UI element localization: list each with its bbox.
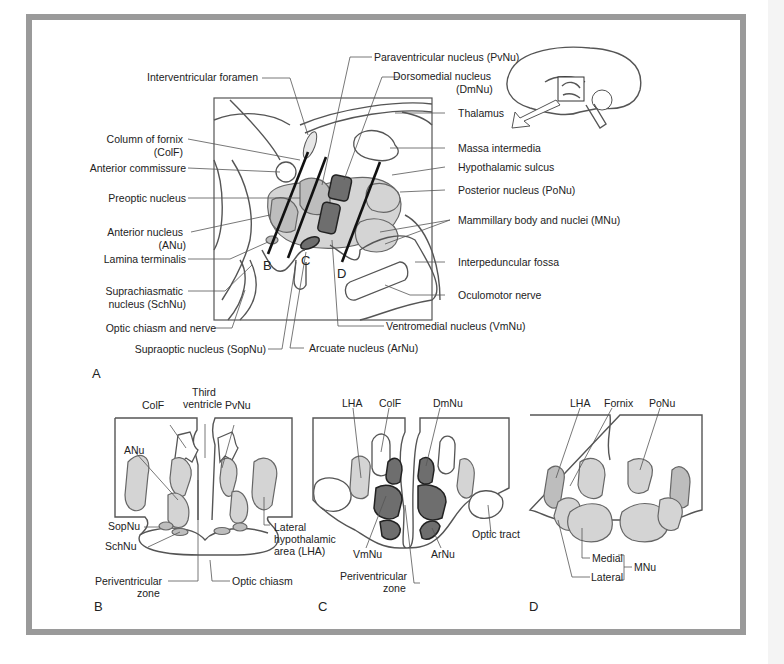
label-b-optic-chiasm: Optic chiasm (232, 575, 293, 587)
label-c-optic-tract: Optic tract (472, 528, 520, 540)
cut-plane-b-label: B (263, 258, 272, 273)
label-schnu: nucleus (SchNu) (108, 298, 186, 310)
label-c-colf: ColF (379, 397, 401, 409)
label-preoptic-nucleus: Preoptic nucleus (108, 192, 186, 204)
label-d-mnu: MNu (634, 561, 656, 573)
label-supraoptic-nucleus: Supraoptic nucleus (SopNu) (135, 343, 266, 355)
label-anu-abbrev: (ANu) (159, 239, 186, 251)
label-arcuate-nucleus: Arcuate nucleus (ArNu) (309, 342, 418, 354)
mammillary-body-shape (355, 219, 398, 252)
anu-left (168, 493, 189, 527)
lha-c-right (457, 459, 474, 498)
panel-d-label: D (529, 599, 538, 614)
label-d-lateral: Lateral (591, 571, 623, 583)
hypothalamus-figure: B C D Interventricular foramen Column of… (0, 0, 784, 664)
label-hypothalamic-sulcus: Hypothalamic sulcus (458, 161, 554, 173)
arnu-c-left (380, 520, 400, 539)
label-b-zone: zone (137, 587, 160, 599)
optic-tract-left (314, 478, 351, 511)
pvnu-right (220, 458, 237, 496)
label-column-of-fornix: Column of fornix (107, 133, 184, 145)
label-colf-abbrev: (ColF) (154, 146, 183, 158)
label-mammillary-body: Mammillary body and nuclei (MNu) (458, 214, 620, 226)
dmnu-c-left (386, 458, 402, 484)
label-massa-intermedia: Massa intermedia (458, 142, 541, 154)
panel-a-right-labels: Thalamus Massa intermedia Hypothalamic s… (458, 107, 620, 301)
label-c-arnu: ArNu (431, 548, 455, 560)
dmnu-c-right (418, 458, 434, 484)
dorsomedial-nucleus-shape (328, 174, 353, 202)
label-thalamus: Thalamus (458, 107, 504, 119)
label-paraventricular-nucleus: Paraventricular nucleus (PvNu) (374, 51, 519, 63)
arnu-c-right (420, 521, 440, 539)
vmnu-c-right (418, 485, 446, 520)
label-b-ventricle: ventricle (183, 398, 222, 410)
preoptic-left (170, 458, 191, 497)
label-dorsomedial-nucleus: Dorsomedial nucleus (393, 70, 491, 82)
label-c-vmnu: VmNu (353, 548, 382, 560)
schnu-right (214, 528, 230, 535)
label-b-hypothalamic: hypothalamic (274, 533, 336, 545)
label-d-lha: LHA (570, 397, 590, 409)
label-optic-chiasm-nerve: Optic chiasm and nerve (106, 322, 216, 334)
label-oculomotor-nerve: Oculomotor nerve (458, 289, 542, 301)
label-c-dmnu: DmNu (433, 397, 463, 409)
panel-b-label: B (94, 599, 103, 614)
label-anterior-commissure: Anterior commissure (90, 162, 186, 174)
panel-a-top-labels: Paraventricular nucleus (PvNu) Dorsomedi… (374, 51, 519, 95)
label-d-ponu: PoNu (649, 397, 675, 409)
label-b-sopnu: SopNu (108, 520, 140, 532)
medial-upper-left (578, 458, 605, 498)
label-d-fornix: Fornix (604, 397, 634, 409)
lateral-mnu-right (658, 498, 682, 530)
colf-c-right (438, 436, 455, 474)
sopnu-right (233, 523, 247, 531)
label-c-lha: LHA (342, 397, 362, 409)
panel-b-diagram (115, 418, 292, 555)
cut-plane-d-label: D (337, 266, 346, 281)
brain-orientation-inset (507, 47, 641, 128)
panel-a-bottom-labels: Ventromedial nucleus (VmNu) Arcuate nucl… (309, 320, 525, 354)
label-b-pvnu: PvNu (225, 399, 251, 411)
sopnu-left (159, 522, 173, 530)
ponu-d (628, 459, 652, 493)
label-d-medial: Medial (592, 552, 623, 564)
label-c-periventricular: Periventricular (340, 570, 408, 582)
vmnu-c-left (374, 485, 402, 519)
label-c-zone: zone (383, 582, 406, 594)
label-dmnu-abbrev: (DmNu) (456, 83, 493, 95)
panel-a-label: A (92, 366, 101, 381)
label-b-lateral: Lateral (274, 521, 306, 533)
label-b-area-lha: area (LHA) (274, 545, 325, 557)
medial-mnu-left (568, 504, 613, 542)
lha-c-left (350, 456, 370, 498)
panel-c-label: C (318, 599, 327, 614)
label-posterior-nucleus: Posterior nucleus (PoNu) (458, 184, 575, 196)
label-b-anu: ANu (124, 444, 145, 456)
label-interpeduncular-fossa: Interpeduncular fossa (458, 256, 559, 268)
label-b-colf: ColF (142, 399, 164, 411)
label-ventromedial-nucleus: Ventromedial nucleus (VmNu) (386, 320, 525, 332)
label-suprachiasmatic: Suprachiasmatic (105, 285, 183, 297)
label-b-periventricular: Periventricular (95, 575, 163, 587)
label-b-schnu: SchNu (105, 540, 137, 552)
panel-a-diagram: B C D (214, 98, 440, 320)
panel-b-leaders (135, 424, 270, 581)
optic-tract-right (469, 491, 503, 519)
label-lamina-terminalis: Lamina terminalis (104, 253, 186, 265)
label-anterior-nucleus: Anterior nucleus (107, 226, 183, 238)
label-interventricular-foramen: Interventricular foramen (147, 71, 258, 83)
anu-right (230, 491, 248, 523)
label-b-third: Third (192, 386, 216, 398)
panel-d-diagram (530, 415, 702, 542)
